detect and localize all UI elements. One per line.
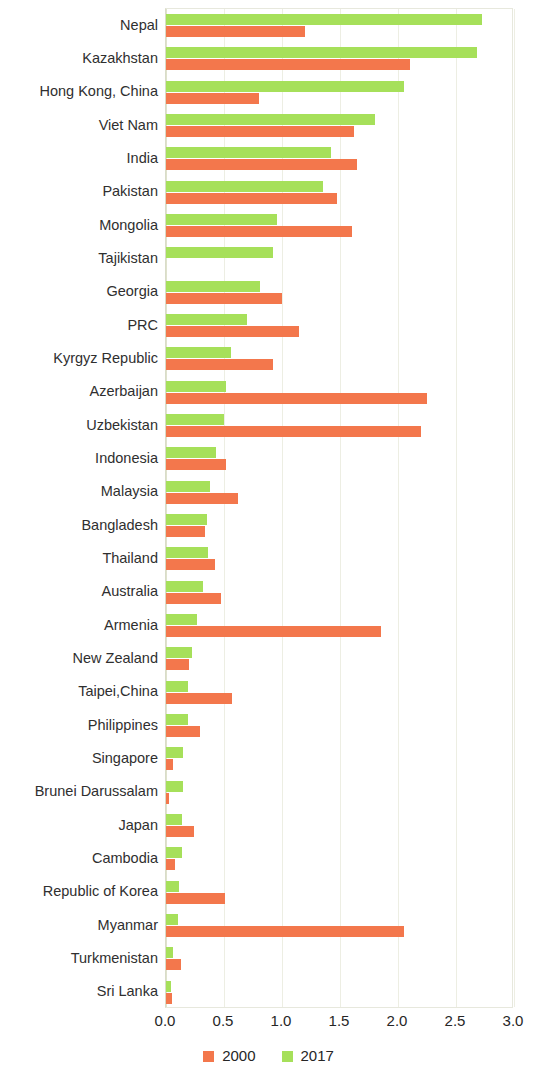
bar-2000 <box>166 426 421 437</box>
bar-group <box>166 642 512 675</box>
bar-2000 <box>166 959 181 970</box>
bar-group <box>166 942 512 975</box>
bar-2000 <box>166 93 259 104</box>
bar-group <box>166 242 512 275</box>
category-label: Japan <box>0 817 158 833</box>
bar-2000 <box>166 626 381 637</box>
category-label: Viet Nam <box>0 117 158 133</box>
bar-2000 <box>166 859 175 870</box>
bar-group <box>166 176 512 209</box>
bar-2000 <box>166 759 173 770</box>
bar-2000 <box>166 493 238 504</box>
bar-2017 <box>166 247 273 258</box>
category-label: Uzbekistan <box>0 417 158 433</box>
legend-item[interactable]: 2000 <box>203 1048 255 1064</box>
bar-group <box>166 42 512 75</box>
bar-2017 <box>166 881 179 892</box>
x-tick-label: 0.0 <box>155 1011 176 1031</box>
bar-2017 <box>166 714 188 725</box>
bar-2000 <box>166 926 404 937</box>
legend-label: 2017 <box>301 1048 334 1064</box>
bar-2017 <box>166 847 182 858</box>
bar-2017 <box>166 914 178 925</box>
legend: 20002017 <box>0 1048 537 1064</box>
bar-2000 <box>166 659 189 670</box>
legend-swatch-icon <box>203 1051 214 1062</box>
bar-2017 <box>166 281 260 292</box>
bar-2017 <box>166 747 183 758</box>
category-axis-labels: NepalKazakhstanHong Kong, ChinaViet NamI… <box>0 8 158 1008</box>
bar-group <box>166 576 512 609</box>
bar-group <box>166 676 512 709</box>
bar-2000 <box>166 893 225 904</box>
bar-group <box>166 276 512 309</box>
category-label: Republic of Korea <box>0 883 158 899</box>
legend-label: 2000 <box>222 1048 255 1064</box>
bar-2017 <box>166 414 224 425</box>
plot-area <box>165 8 513 1008</box>
bar-2017 <box>166 81 404 92</box>
bar-2000 <box>166 159 357 170</box>
bar-2017 <box>166 514 207 525</box>
bar-2000 <box>166 393 427 404</box>
bar-2000 <box>166 459 226 470</box>
bar-2017 <box>166 14 482 25</box>
category-label: Philippines <box>0 717 158 733</box>
bar-2017 <box>166 481 210 492</box>
category-label: Tajikistan <box>0 250 158 266</box>
value-axis: 0.00.51.01.52.02.53.0 <box>165 1011 513 1035</box>
bar-group <box>166 76 512 109</box>
category-label: PRC <box>0 317 158 333</box>
category-label: Mongolia <box>0 217 158 233</box>
bar-group <box>166 876 512 909</box>
bar-2017 <box>166 447 216 458</box>
bar-group <box>166 309 512 342</box>
bar-2017 <box>166 347 231 358</box>
bar-2017 <box>166 114 375 125</box>
bar-2017 <box>166 681 188 692</box>
category-label: Azerbaijan <box>0 383 158 399</box>
bar-group <box>166 776 512 809</box>
bar-2017 <box>166 47 477 58</box>
category-label: Myanmar <box>0 917 158 933</box>
horizontal-bar-chart: NepalKazakhstanHong Kong, ChinaViet NamI… <box>0 0 537 1077</box>
bar-group <box>166 742 512 775</box>
bar-group <box>166 409 512 442</box>
bar-2000 <box>166 693 232 704</box>
category-label: Turkmenistan <box>0 950 158 966</box>
legend-swatch-icon <box>282 1051 293 1062</box>
category-label: Brunei Darussalam <box>0 783 158 799</box>
x-tick-label: 3.0 <box>503 1011 524 1031</box>
bar-rows <box>166 9 512 1007</box>
bar-group <box>166 509 512 542</box>
bar-2017 <box>166 581 203 592</box>
category-label: Singapore <box>0 750 158 766</box>
bar-2017 <box>166 614 197 625</box>
bar-2017 <box>166 947 173 958</box>
legend-item[interactable]: 2017 <box>282 1048 334 1064</box>
category-label: India <box>0 150 158 166</box>
category-label: New Zealand <box>0 650 158 666</box>
bar-2000 <box>166 793 169 804</box>
category-label: Cambodia <box>0 850 158 866</box>
bar-2000 <box>166 326 299 337</box>
category-label: Indonesia <box>0 450 158 466</box>
bar-2017 <box>166 647 192 658</box>
bar-2017 <box>166 981 171 992</box>
bar-2000 <box>166 359 273 370</box>
bar-2017 <box>166 181 323 192</box>
bar-2000 <box>166 559 215 570</box>
bar-2000 <box>166 293 282 304</box>
bar-2000 <box>166 226 352 237</box>
bar-group <box>166 109 512 142</box>
bar-2000 <box>166 826 194 837</box>
bar-group <box>166 609 512 642</box>
bar-2000 <box>166 593 221 604</box>
bar-2017 <box>166 814 182 825</box>
bar-group <box>166 142 512 175</box>
category-label: Hong Kong, China <box>0 83 158 99</box>
bar-2017 <box>166 314 247 325</box>
category-label: Thailand <box>0 550 158 566</box>
bar-group <box>166 9 512 42</box>
bar-group <box>166 342 512 375</box>
